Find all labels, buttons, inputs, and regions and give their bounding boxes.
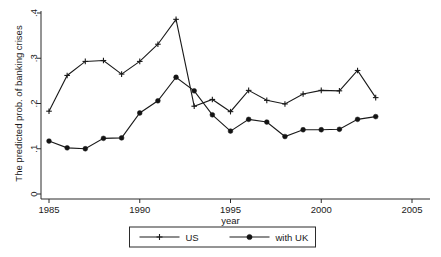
circle-marker (337, 127, 342, 132)
circle-marker (246, 117, 251, 122)
chart-figure: 19851990199520002005 0.1.2.3.4 year The … (0, 0, 441, 257)
circle-marker (264, 120, 269, 125)
x-tick-label: 1990 (129, 204, 150, 215)
circle-marker (47, 139, 52, 144)
y-tick-label: 0 (28, 191, 39, 196)
series-with-uk (47, 75, 379, 151)
circle-marker (83, 146, 88, 151)
x-axis-title: year (221, 215, 239, 226)
y-axis-ticks: 0.1.2.3.4 (28, 9, 42, 197)
legend-label: US (186, 232, 199, 243)
series-us (46, 17, 378, 115)
data-series (46, 17, 378, 152)
x-tick-label: 1995 (220, 204, 241, 215)
plus-marker (191, 103, 197, 109)
circle-marker (301, 127, 306, 132)
legend-label: with UK (275, 232, 309, 243)
circle-marker (119, 135, 124, 140)
circle-marker (192, 88, 197, 93)
x-tick-label: 2005 (401, 204, 422, 215)
circle-marker (373, 114, 378, 119)
circle-marker (210, 112, 215, 117)
y-tick-label: .3 (28, 54, 39, 62)
y-tick-label: .4 (28, 9, 39, 17)
circle-marker (228, 129, 233, 134)
circle-marker (65, 145, 70, 150)
x-tick-label: 2000 (311, 204, 332, 215)
legend-circle-icon (247, 234, 252, 239)
plus-marker (318, 88, 324, 94)
circle-marker (101, 136, 106, 141)
y-tick-label: .1 (28, 145, 39, 153)
x-axis-ticks: 19851990199520002005 (38, 199, 422, 215)
plus-marker (264, 98, 270, 104)
chart-legend: USwith UK (130, 227, 316, 247)
circle-marker (283, 134, 288, 139)
circle-marker (319, 127, 324, 132)
x-tick-label: 1985 (38, 204, 59, 215)
y-tick-label: .2 (28, 100, 39, 108)
chart-canvas: 19851990199520002005 0.1.2.3.4 year The … (0, 0, 441, 257)
plus-marker (282, 101, 288, 107)
circle-marker (137, 111, 142, 116)
plus-marker (46, 108, 52, 114)
circle-marker (174, 75, 179, 80)
y-axis-title: The predicted prob. of banking crises (13, 25, 24, 182)
circle-marker (156, 98, 161, 103)
plus-marker (300, 91, 306, 97)
circle-marker (355, 117, 360, 122)
